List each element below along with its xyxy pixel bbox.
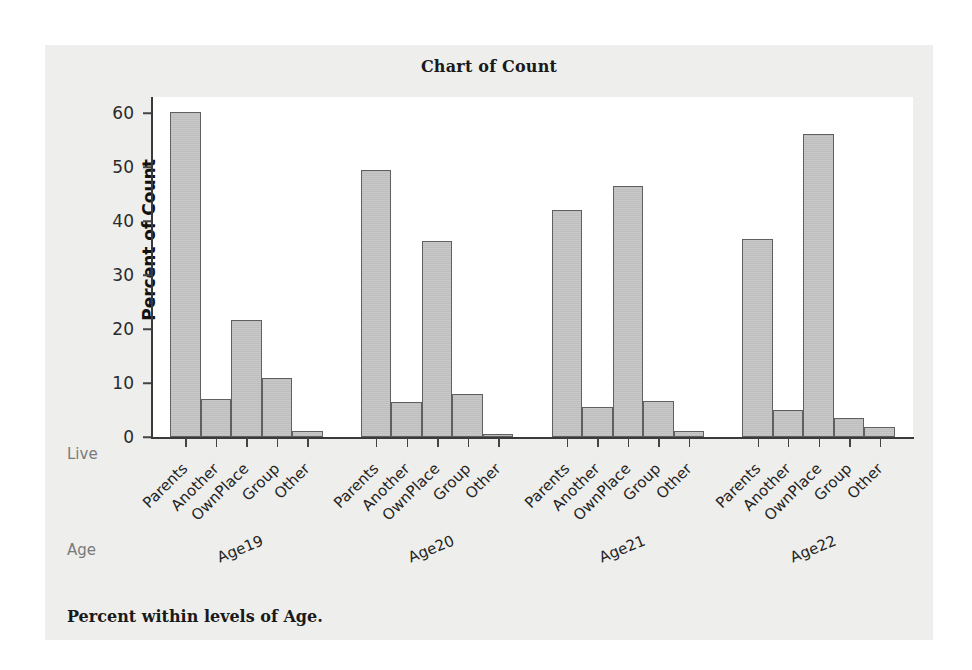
group-label: Age19: [215, 532, 266, 567]
y-tick-label: 40: [74, 211, 134, 231]
x-axis-line: [151, 437, 914, 439]
x-tick-mark: [216, 438, 217, 447]
bar: [201, 399, 232, 437]
x-tick-mark: [277, 438, 278, 447]
bar: [292, 431, 323, 437]
y-tick-mark: [143, 112, 151, 114]
y-tick-mark: [143, 274, 151, 276]
chart-title: Chart of Count: [45, 57, 933, 76]
x-tick-mark: [628, 438, 629, 447]
x-tick-mark: [468, 438, 469, 447]
group-label: Age22: [787, 532, 838, 567]
x-tick-mark: [437, 438, 438, 447]
x-tick-mark: [185, 438, 186, 447]
x-tick-mark: [567, 438, 568, 447]
x-tick-mark: [849, 438, 850, 447]
x-tick-mark: [689, 438, 690, 447]
x-tick-mark: [376, 438, 377, 447]
bar: [452, 394, 483, 437]
bar: [742, 239, 773, 437]
chart-figure: Chart of Count Percent of Count 01020304…: [45, 45, 933, 640]
bar: [582, 407, 613, 437]
bar: [864, 427, 895, 437]
bar: [773, 410, 804, 437]
bar: [803, 134, 834, 437]
row-label-live: Live: [67, 445, 98, 463]
bar: [262, 378, 293, 437]
y-tick-mark: [143, 436, 151, 438]
y-tick-label: 0: [74, 427, 134, 447]
x-tick-mark: [788, 438, 789, 447]
bar: [361, 170, 392, 437]
y-tick-label: 60: [74, 103, 134, 123]
bar: [552, 210, 583, 437]
x-tick-mark: [597, 438, 598, 447]
bar: [170, 112, 201, 437]
x-tick-mark: [880, 438, 881, 447]
y-tick-label: 20: [74, 319, 134, 339]
group-label: Age21: [597, 532, 648, 567]
group-label: Age20: [406, 532, 457, 567]
y-axis-title: Percent of Count: [139, 130, 159, 350]
bar: [391, 402, 422, 437]
y-tick-label: 30: [74, 265, 134, 285]
bar: [483, 434, 514, 437]
x-tick-mark: [658, 438, 659, 447]
y-tick-mark: [143, 220, 151, 222]
y-tick-label: 50: [74, 157, 134, 177]
x-tick-mark: [407, 438, 408, 447]
x-tick-mark: [819, 438, 820, 447]
bar: [674, 431, 705, 437]
bar: [422, 241, 453, 437]
bar: [834, 418, 865, 437]
y-axis-line: [151, 97, 153, 438]
row-label-age: Age: [67, 541, 96, 559]
x-tick-mark: [246, 438, 247, 447]
y-tick-label: 10: [74, 373, 134, 393]
bar: [643, 401, 674, 437]
x-tick-mark: [307, 438, 308, 447]
chart-footnote: Percent within levels of Age.: [67, 607, 323, 626]
bar: [231, 320, 262, 437]
bar: [613, 186, 644, 437]
x-tick-mark: [758, 438, 759, 447]
x-tick-mark: [498, 438, 499, 447]
y-tick-mark: [143, 166, 151, 168]
y-tick-mark: [143, 382, 151, 384]
y-tick-mark: [143, 328, 151, 330]
